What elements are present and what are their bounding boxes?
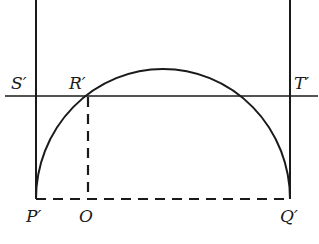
diagram-canvas: S′ R′ T′ P′ O Q′ (0, 0, 319, 244)
label-q: Q′ (280, 206, 298, 226)
label-o: O (79, 206, 93, 226)
label-s: S′ (11, 73, 27, 93)
label-r: R′ (68, 73, 86, 93)
label-t: T′ (294, 73, 309, 93)
label-p: P′ (25, 206, 41, 226)
